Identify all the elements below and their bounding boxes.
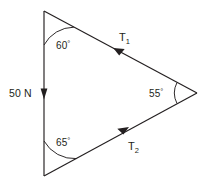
tension-1-label: T1: [119, 31, 130, 46]
force-triangle-canvas: 60° 65° 55° 50 N T1 T2: [0, 0, 209, 188]
angle-label-right-value: 55: [149, 88, 161, 99]
tension-2-subscript: 2: [135, 146, 139, 155]
force-triangle-diagram: 60° 65° 55° 50 N T1 T2: [0, 0, 209, 188]
angle-label-bottom-left: 65°: [56, 136, 70, 148]
weight-force-label: 50 N: [9, 87, 32, 99]
angle-label-right: 55°: [149, 87, 163, 99]
tension-2-label: T2: [128, 140, 139, 155]
angle-label-bottom-left-value: 65: [56, 137, 68, 148]
angle-label-top-value: 60: [56, 40, 68, 51]
angle-label-right-degree: °: [160, 87, 163, 96]
angle-label-top-degree: °: [67, 39, 70, 48]
angle-label-top: 60°: [56, 39, 70, 51]
tension-1-arrowhead-icon: [113, 48, 125, 55]
weight-arrowhead-icon: [41, 89, 48, 100]
angle-label-bottom-left-degree: °: [67, 136, 70, 145]
tension-1-subscript: 1: [126, 37, 130, 46]
angle-arc-right: [174, 83, 177, 104]
tension-2-vector-line: [44, 93, 197, 176]
